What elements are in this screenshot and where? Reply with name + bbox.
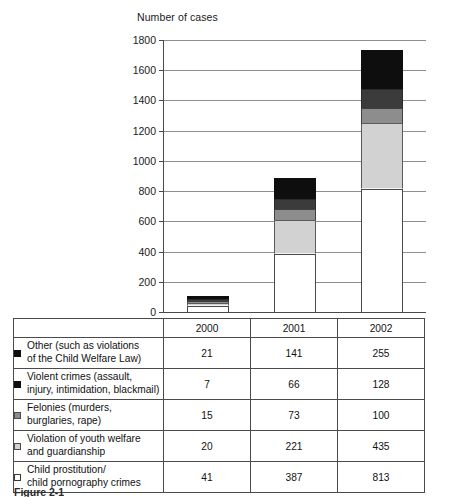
value-cell-2001: 387: [251, 462, 338, 493]
ytick-label-1800: 1800: [133, 34, 156, 46]
value-cell-2000: 21: [164, 338, 251, 369]
column-2001: [251, 40, 338, 312]
table-row: Other (such as violationsof the Child We…: [14, 338, 425, 369]
value-cell-2002: 100: [338, 400, 425, 431]
value-cell-2001: 73: [251, 400, 338, 431]
ytick-label-800: 800: [138, 185, 156, 197]
bar-segment[interactable]: [274, 178, 316, 199]
table-row: Violation of youth welfareand guardiansh…: [14, 431, 425, 462]
table-body: Other (such as violationsof the Child We…: [14, 338, 425, 493]
column-2002: [338, 40, 425, 312]
legend-swatch-icon: [14, 474, 21, 481]
plot-area: 180016001400120010008006004002000: [163, 40, 425, 312]
bar-segment[interactable]: [274, 254, 316, 312]
value-cell-2002: 255: [338, 338, 425, 369]
value-cell-2000: 20: [164, 431, 251, 462]
category-label: Felonies (murders,burglaries, rape): [27, 402, 112, 427]
data-table: 2000 2001 2002 Other (such as violations…: [13, 318, 425, 493]
legend-swatch-icon: [14, 381, 21, 388]
category-cell: Felonies (murders,burglaries, rape): [14, 400, 164, 431]
table-header-2002: 2002: [338, 319, 425, 338]
value-cell-2001: 141: [251, 338, 338, 369]
value-cell-2000: 41: [164, 462, 251, 493]
stacked-bar-2001[interactable]: [274, 178, 316, 312]
ytick-label-1400: 1400: [133, 94, 156, 106]
column-2000: [164, 40, 251, 312]
category-cell: Other (such as violationsof the Child We…: [14, 338, 164, 369]
value-cell-2002: 813: [338, 462, 425, 493]
table-header-2000: 2000: [164, 319, 251, 338]
table-header-row: 2000 2001 2002: [14, 319, 425, 338]
value-cell-2002: 128: [338, 369, 425, 400]
ytick-label-1200: 1200: [133, 125, 156, 137]
value-cell-2002: 435: [338, 431, 425, 462]
category-cell: Violation of youth welfareand guardiansh…: [14, 431, 164, 462]
table-row: Violent crimes (assault,injury, intimida…: [14, 369, 425, 400]
gridline-0: [164, 312, 426, 313]
legend-swatch-icon: [14, 412, 21, 419]
category-label: Violation of youth welfareand guardiansh…: [27, 433, 141, 458]
category-label: Other (such as violationsof the Child We…: [27, 340, 141, 365]
value-cell-2001: 66: [251, 369, 338, 400]
bar-segment[interactable]: [274, 209, 316, 220]
ytick-label-200: 200: [138, 276, 156, 288]
ytick-label-1000: 1000: [133, 155, 156, 167]
legend-swatch-icon: [14, 443, 21, 450]
stacked-bar-2000[interactable]: [187, 296, 229, 312]
ytick-label-600: 600: [138, 215, 156, 227]
value-cell-2000: 7: [164, 369, 251, 400]
bar-segment[interactable]: [361, 123, 403, 189]
legend-swatch-icon: [14, 350, 21, 357]
ytick-label-0: 0: [150, 306, 156, 318]
table-row: Felonies (murders,burglaries, rape)15731…: [14, 400, 425, 431]
category-label: Violent crimes (assault,injury, intimida…: [27, 371, 159, 396]
table-row: Child prostitution/child pornography cri…: [14, 462, 425, 493]
table-header-2001: 2001: [251, 319, 338, 338]
table-header-blank: [14, 319, 164, 338]
bar-segment[interactable]: [361, 50, 403, 89]
value-cell-2000: 15: [164, 400, 251, 431]
figure-caption: Figure 2-1: [14, 486, 64, 497]
bar-segment[interactable]: [361, 108, 403, 123]
chart-region: Number of cases 180016001400120010008006…: [0, 0, 449, 322]
bar-segment[interactable]: [274, 220, 316, 253]
ytick-label-1600: 1600: [133, 64, 156, 76]
bar-segment[interactable]: [361, 89, 403, 108]
ytick-label-400: 400: [138, 246, 156, 258]
stacked-bar-2002[interactable]: [361, 50, 403, 312]
chart-axis-title: Number of cases: [137, 11, 218, 23]
value-cell-2001: 221: [251, 431, 338, 462]
bar-segment[interactable]: [361, 189, 403, 312]
bar-segment[interactable]: [274, 199, 316, 209]
bar-segment[interactable]: [187, 306, 229, 312]
ytick-0: [159, 312, 164, 313]
category-cell: Violent crimes (assault,injury, intimida…: [14, 369, 164, 400]
